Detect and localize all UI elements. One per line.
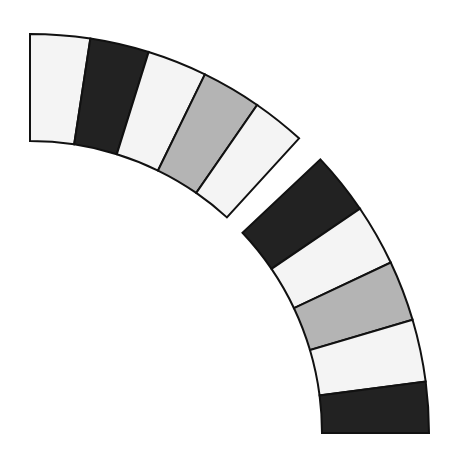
diagram-canvas [0,0,450,455]
lower-section [243,159,429,433]
track-segments [30,34,429,433]
upper-section [30,34,299,217]
curved-track-diagram [0,0,450,455]
